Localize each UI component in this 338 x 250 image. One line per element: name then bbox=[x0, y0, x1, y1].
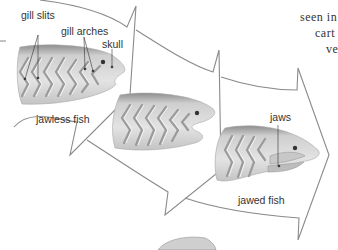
side-text-line-2: cart bbox=[315, 27, 335, 39]
label-stage-jawed-fish: jawed fish bbox=[238, 195, 285, 206]
label-stage-jawless-fish: jawless fish bbox=[36, 114, 90, 125]
fish-eye-icon bbox=[101, 60, 105, 64]
label-jaws: jaws bbox=[270, 112, 291, 123]
side-text-line-3: ve bbox=[326, 43, 338, 55]
fish-eye-icon bbox=[195, 111, 199, 115]
label-gill-slits: gill slits bbox=[21, 10, 55, 21]
diagram-canvas bbox=[0, 0, 338, 250]
label-gill-arches: gill arches bbox=[61, 26, 108, 37]
transitional-fish-illustration bbox=[113, 93, 215, 150]
fish-evolution-diagram: gill slits gill arches skull jawless fis… bbox=[0, 0, 338, 250]
label-skull: skull bbox=[102, 39, 123, 50]
bottom-partial-illustration bbox=[158, 237, 216, 250]
jawed-fish-illustration bbox=[215, 125, 319, 181]
fish-eye-icon bbox=[293, 146, 297, 150]
side-text-line-1: seen in bbox=[300, 11, 337, 23]
